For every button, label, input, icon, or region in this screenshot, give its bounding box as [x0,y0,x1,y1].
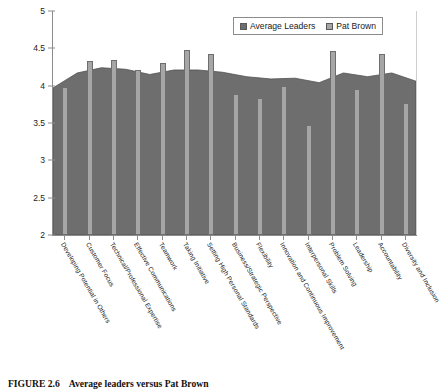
x-axis-tick-mark [332,235,333,240]
y-axis-tick-mark [48,160,55,161]
x-axis-category-label: Developing Potential in Others [60,241,112,324]
x-axis-category-label: Setting High Personal Standards [206,241,261,330]
bar-pat-brown [233,94,239,235]
chart-legend: Average Leaders Pat Brown [233,17,383,35]
bar-pat-brown [403,103,409,235]
y-axis-tick-label: 4.5 [0,43,52,53]
legend-label-average-leaders: Average Leaders [250,21,315,31]
bar-pat-brown [208,54,214,235]
figure-caption-text: Average leaders versus Pat Brown [69,378,209,389]
plot-area [52,11,417,235]
bar-pat-brown [135,70,141,235]
legend-item-pat-brown: Pat Brown [326,21,376,31]
x-axis-tick-mark [283,235,284,240]
y-axis-tick-mark [48,123,55,124]
legend-swatch-average-leaders-icon [240,23,247,30]
bar-pat-brown [160,63,166,235]
x-axis-category-label: Business/Strategic Perspective [230,241,283,326]
y-axis-tick-label: 5 [0,6,52,16]
x-axis-tick-mark [259,235,260,240]
y-axis-tick-label: 2.5 [0,193,52,203]
y-axis-tick-label: 3 [0,155,52,165]
x-axis-category-label: Accountability [376,241,403,281]
x-axis-tick-mark [381,235,382,240]
bar-pat-brown [257,98,263,235]
x-axis-tick-mark [356,235,357,240]
x-axis-tick-mark [405,235,406,240]
bar-pat-brown [87,61,93,235]
figure-caption-label: FIGURE 2.6 [8,378,60,389]
x-axis-tick-mark [64,235,65,240]
bar-pat-brown [281,86,287,235]
legend-label-pat-brown: Pat Brown [336,21,376,31]
y-axis-tick-label: 3.5 [0,118,52,128]
bar-pat-brown [330,51,336,235]
y-axis-tick-mark [48,11,55,12]
y-axis-tick-label: 4 [0,81,52,91]
x-axis-tick-mark [308,235,309,240]
x-axis-category-label: Flexibility [255,241,275,269]
x-axis-tick-mark [186,235,187,240]
bar-pat-brown [306,125,312,236]
bar-pat-brown [354,89,360,235]
x-axis-tick-mark [89,235,90,240]
legend-swatch-pat-brown-icon [326,23,333,30]
bar-pat-brown [111,60,117,235]
x-axis-category-label: Effective Communications [133,241,178,312]
bar-pat-brown [62,87,68,235]
y-axis: 54.543.532.52 [0,11,52,235]
figure-caption: FIGURE 2.6Average leaders versus Pat Bro… [8,378,209,389]
x-axis-category-label: Diversity and Inclusion [401,241,441,304]
legend-item-average-leaders: Average Leaders [240,21,315,31]
plot-inner [53,11,416,235]
x-axis-category-label: Teamwork [157,241,178,271]
y-axis-tick-mark [48,235,55,236]
y-axis-tick-label: 2 [0,230,52,240]
y-axis-tick-mark [48,48,55,49]
x-axis-category-label: Leadership [352,241,375,274]
bar-pat-brown [379,54,385,235]
x-axis-tick-mark [162,235,163,240]
x-axis-tick-mark [113,235,114,240]
y-axis-tick-mark [48,85,55,86]
x-axis-tick-mark [235,235,236,240]
x-axis-tick-mark [137,235,138,240]
x-axis-tick-mark [210,235,211,240]
bar-pat-brown [184,50,190,235]
y-axis-tick-mark [48,197,55,198]
